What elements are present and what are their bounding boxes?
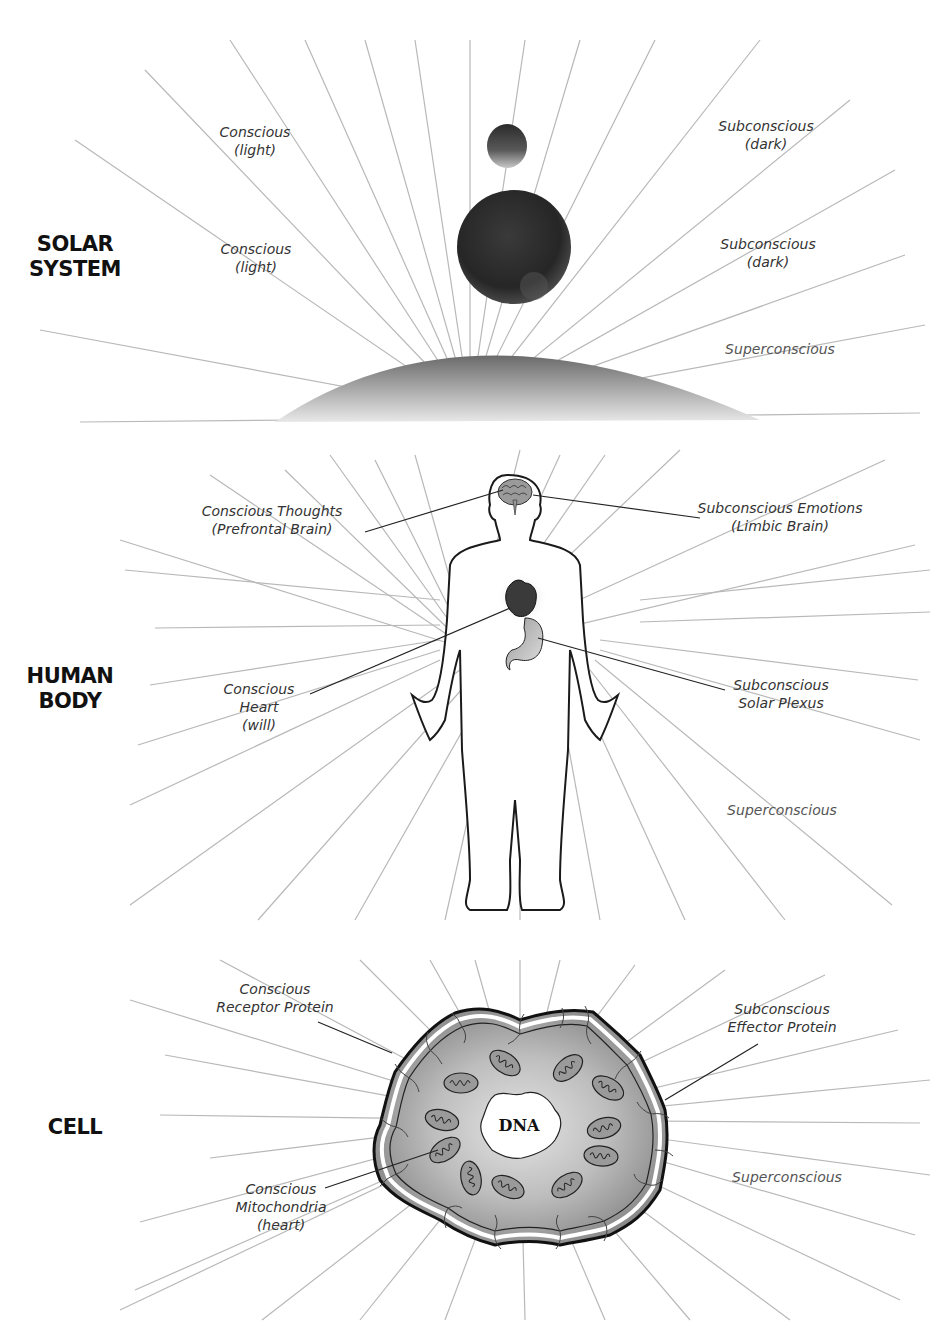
small-planet — [487, 124, 527, 168]
section-title-cell: CELL — [25, 1115, 125, 1140]
section-title-human-body: HUMAN BODY — [15, 664, 125, 714]
dna-label: DNA — [499, 1116, 540, 1135]
label-body-conscious-thoughts: Conscious Thoughts(Prefrontal Brain) — [202, 502, 343, 538]
heart-icon — [506, 580, 537, 616]
title-line: CELL — [25, 1115, 125, 1140]
title-line: SOLAR — [20, 232, 130, 257]
human-silhouette — [412, 475, 618, 910]
sun-dome — [275, 355, 760, 422]
large-planet — [457, 190, 571, 304]
title-line: BODY — [15, 689, 125, 714]
label-solar-superconscious: Superconscious — [725, 340, 835, 358]
title-line: SYSTEM — [20, 257, 130, 282]
section-title-solar-system: SOLAR SYSTEM — [20, 232, 130, 282]
label-cell-conscious-receptor: ConsciousReceptor Protein — [216, 980, 333, 1016]
label-cell-conscious-mitochondria: ConsciousMitochondria(heart) — [235, 1180, 326, 1234]
label-body-subconscious-emotions: Subconscious Emotions(Limbic Brain) — [697, 499, 862, 535]
label-solar-subconscious-2: Subconscious(dark) — [720, 235, 815, 271]
diagram-canvas: SOLAR SYSTEM HUMAN BODY CELL Conscious(l… — [0, 0, 943, 1344]
label-body-superconscious: Superconscious — [727, 801, 837, 819]
label-solar-conscious-1: Conscious(light) — [220, 123, 291, 159]
label-body-conscious-heart: ConsciousHeart(will) — [224, 680, 295, 734]
label-cell-superconscious: Superconscious — [732, 1168, 842, 1186]
label-cell-subconscious-effector: SubconsciousEffector Protein — [727, 1000, 836, 1036]
diagram-artwork — [0, 0, 943, 1344]
label-solar-subconscious-1: Subconscious(dark) — [718, 117, 813, 153]
title-line: HUMAN — [15, 664, 125, 689]
label-body-subconscious-solar-plexus: SubconsciousSolar Plexus — [733, 676, 828, 712]
label-solar-conscious-2: Conscious(light) — [221, 240, 292, 276]
